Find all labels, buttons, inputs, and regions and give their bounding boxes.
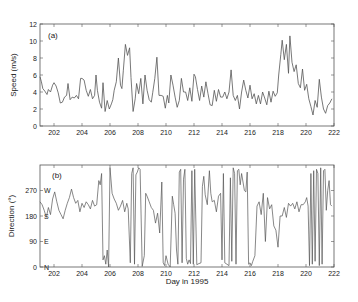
y-tick-label: 270 — [25, 187, 37, 194]
figure: 2022042062082102122142162182202220246810… — [0, 0, 358, 302]
y-tick-label: 4 — [33, 89, 37, 96]
x-tick-label: 204 — [76, 270, 88, 277]
y-tick-label: 12 — [29, 21, 37, 28]
x-tick-label: 222 — [328, 270, 340, 277]
compass-label: W — [44, 187, 51, 194]
y-tick-label: 10 — [29, 38, 37, 45]
panel-b-frame — [40, 165, 334, 267]
y-tick-label: 0 — [33, 264, 37, 271]
x-tick-label: 206 — [104, 129, 116, 136]
direction-line — [40, 168, 332, 267]
y-tick-label: 90 — [29, 238, 37, 245]
chart-svg: 2022042062082102122142162182202220246810… — [0, 0, 358, 302]
panel-a-ylabel: Speed (m/s) — [9, 53, 18, 97]
x-tick-label: 206 — [104, 270, 116, 277]
x-tick-label: 202 — [48, 270, 60, 277]
x-tick-label: 210 — [160, 129, 172, 136]
x-tick-label: 218 — [272, 270, 284, 277]
x-tick-label: 208 — [132, 270, 144, 277]
x-tick-label: 202 — [48, 129, 60, 136]
panel-b-xlabel: Day in 1995 — [166, 277, 209, 286]
y-tick-label: 8 — [33, 55, 37, 62]
x-tick-label: 204 — [76, 129, 88, 136]
panel-a-ticks: 2022042062082102122142162182202220246810… — [29, 21, 340, 137]
x-tick-label: 218 — [272, 129, 284, 136]
x-tick-label: 220 — [300, 270, 312, 277]
x-tick-label: 210 — [160, 270, 172, 277]
y-tick-label: 0 — [33, 123, 37, 130]
panel-b-ylabel: Direction (°) — [7, 195, 16, 238]
x-tick-label: 216 — [244, 129, 256, 136]
panel-b: 2022042062082102122142162182202220N90E18… — [7, 165, 340, 286]
panel-a: 2022042062082102122142162182202220246810… — [9, 21, 340, 137]
x-tick-label: 212 — [188, 129, 200, 136]
x-tick-label: 216 — [244, 270, 256, 277]
compass-label: E — [44, 238, 49, 245]
x-tick-label: 214 — [216, 270, 228, 277]
compass-label: N — [44, 264, 49, 271]
speed-line — [40, 36, 332, 115]
x-tick-label: 212 — [188, 270, 200, 277]
x-tick-label: 220 — [300, 129, 312, 136]
x-tick-label: 214 — [216, 129, 228, 136]
panel-a-label: (a) — [48, 31, 58, 40]
x-tick-label: 208 — [132, 129, 144, 136]
panel-b-label: (b) — [52, 171, 62, 180]
y-tick-label: 2 — [33, 106, 37, 113]
y-tick-label: 180 — [25, 213, 37, 220]
x-tick-label: 222 — [328, 129, 340, 136]
y-tick-label: 6 — [33, 72, 37, 79]
